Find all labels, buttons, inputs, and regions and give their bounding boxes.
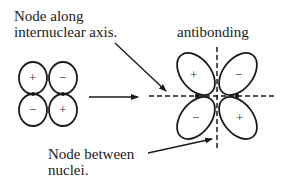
node-axis-pointer-arrow [115, 43, 166, 91]
orbital-diagram: + − − + + − − + [0, 0, 289, 185]
antibonding-sign-upper-right: − [235, 67, 242, 82]
nucleus-left-dot [195, 94, 199, 98]
left-sign-bottom-right: + [59, 102, 66, 117]
left-sign-top-right: − [59, 70, 66, 85]
left-p-orbitals [19, 62, 77, 126]
antibonding-sign-lower-right: + [236, 110, 243, 125]
left-sign-bottom-left: − [29, 102, 36, 117]
nucleus-right-dot [235, 94, 239, 98]
left-node-dot-2 [61, 92, 65, 96]
antibonding-sign-lower-left: − [192, 110, 199, 125]
node-between-pointer-arrow [148, 139, 212, 153]
antibonding-sign-upper-left: + [190, 67, 197, 82]
left-sign-top-left: + [29, 70, 36, 85]
antibonding-orbital: + − − + [149, 46, 276, 150]
left-node-dot-1 [31, 92, 35, 96]
